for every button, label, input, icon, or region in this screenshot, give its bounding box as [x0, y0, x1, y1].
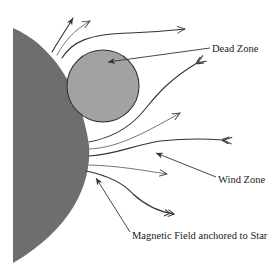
field-line-top-2 [57, 21, 90, 55]
wind-zone-callout: Wind Zone [156, 153, 265, 185]
field-line-mid-4 [89, 165, 167, 174]
wind-zone-label: Wind Zone [218, 174, 265, 185]
dead-zone-callout: Dead Zone [108, 43, 259, 62]
field-line-bottom [86, 171, 174, 214]
dead-zone-circle [67, 50, 139, 122]
field-line-top-1 [52, 18, 73, 52]
dead-zone-pointer [108, 48, 210, 62]
magnetic-field-label: Magnetic Field anchored to Star [132, 230, 268, 241]
magnetic-field-callout: Magnetic Field anchored to Star [96, 178, 268, 241]
dead-zone-label: Dead Zone [212, 43, 259, 54]
stellar-magnetosphere-diagram: Dead Zone Wind Zone Magnetic Field ancho… [0, 0, 279, 271]
